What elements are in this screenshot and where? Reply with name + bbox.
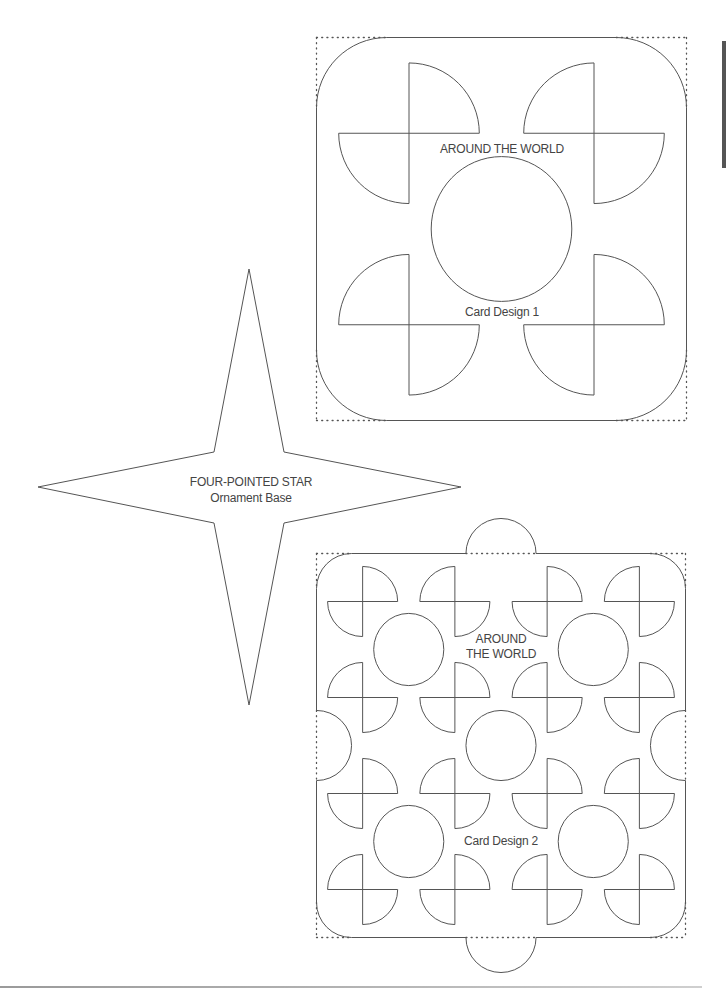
- section-tab: [722, 41, 726, 168]
- star-title-label: FOUR-POINTED STAR: [190, 475, 312, 489]
- card-2-caption: Card Design 2: [464, 834, 538, 848]
- footer-rule: [0, 986, 702, 988]
- card-design-1-outline: [317, 38, 687, 421]
- card-1-caption: Card Design 1: [465, 305, 539, 319]
- card-design-2-outline: [317, 518, 686, 972]
- card-1-title: AROUND THE WORLD: [440, 142, 564, 156]
- pattern-sheet: [0, 0, 726, 991]
- card-2-title-line-1: AROUND: [476, 632, 527, 646]
- card-2-title-line-2: THE WORLD: [466, 647, 536, 661]
- star-subtitle-label: Ornament Base: [210, 491, 291, 505]
